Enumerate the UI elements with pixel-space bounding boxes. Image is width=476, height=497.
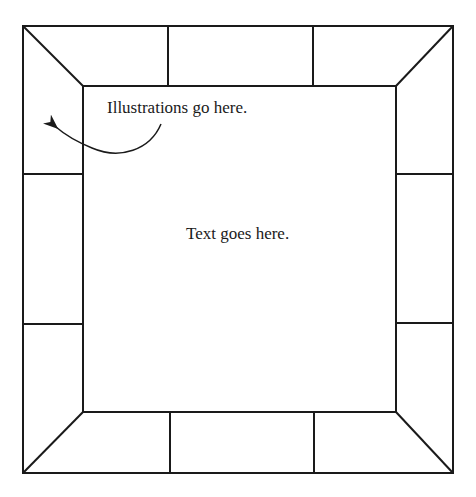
corner-diagonal-bottom-right [396, 412, 453, 473]
illustrations-label: Illustrations go here. [107, 99, 247, 116]
curved-arrow-icon [56, 124, 161, 153]
outer-border [23, 26, 453, 473]
layout-frame-diagram [0, 0, 476, 497]
corner-diagonal-bottom-left [23, 412, 83, 473]
corner-diagonal-top-right [396, 26, 453, 86]
corner-diagonal-top-left [23, 26, 83, 86]
text-area-box [83, 86, 396, 412]
text-label: Text goes here. [186, 225, 289, 242]
